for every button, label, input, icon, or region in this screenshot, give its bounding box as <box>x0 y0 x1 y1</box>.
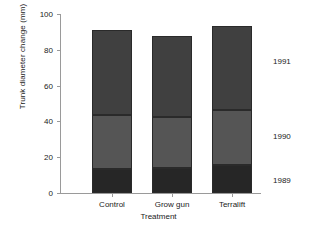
bar-segment-grow-gun-1990[interactable] <box>152 117 192 168</box>
y-axis-line <box>60 14 61 193</box>
y-tick-100: 100 <box>13 10 60 19</box>
bar-segment-grow-gun-1991[interactable] <box>152 36 192 117</box>
y-tick-mark-60 <box>57 86 60 87</box>
y-tick-mark-80 <box>57 50 60 51</box>
x-axis-line <box>60 193 261 194</box>
y-tick-20: 20 <box>13 153 60 162</box>
y-tick-40: 40 <box>13 117 60 126</box>
x-axis-title: Treatment <box>0 212 317 221</box>
y-tick-60: 60 <box>13 81 60 90</box>
y-tick-mark-40 <box>57 121 60 122</box>
bar-segment-control-1990[interactable] <box>92 115 132 169</box>
y-tick-label: 40 <box>44 117 53 126</box>
y-tick-0: 0 <box>13 189 60 198</box>
series-annotation-1990: 1990 <box>273 132 291 141</box>
bar-segment-grow-gun-1989[interactable] <box>152 168 192 193</box>
chart-figure: Trunk diameter change (mm) 0 20 40 60 80… <box>0 0 317 242</box>
series-annotation-1989: 1989 <box>273 176 291 185</box>
series-annotation-1991: 1991 <box>273 57 291 66</box>
x-tick-label-control: Control <box>99 200 125 209</box>
x-tick-label-terralift: Terralift <box>219 200 245 209</box>
x-tick-mark-grow-gun <box>172 193 173 197</box>
y-tick-mark-100 <box>57 14 60 15</box>
x-tick-label-grow-gun: Grow gun <box>155 200 190 209</box>
y-tick-label: 0 <box>49 189 53 198</box>
y-tick-mark-20 <box>57 157 60 158</box>
bar-segment-terralift-1989[interactable] <box>212 165 252 193</box>
x-tick-mark-terralift <box>232 193 233 197</box>
x-tick-mark-control <box>112 193 113 197</box>
y-tick-label: 20 <box>44 153 53 162</box>
bar-segment-terralift-1990[interactable] <box>212 110 252 166</box>
bar-segment-terralift-1991[interactable] <box>212 26 252 110</box>
y-tick-80: 80 <box>13 45 60 54</box>
y-tick-mark-0 <box>57 193 60 194</box>
bar-segment-control-1991[interactable] <box>92 30 132 115</box>
y-tick-label: 80 <box>44 45 53 54</box>
y-tick-label: 60 <box>44 81 53 90</box>
bar-segment-control-1989[interactable] <box>92 169 132 193</box>
plot-area: 0 20 40 60 80 100 Control Grow gun Terra… <box>60 14 260 193</box>
y-tick-label: 100 <box>40 10 53 19</box>
